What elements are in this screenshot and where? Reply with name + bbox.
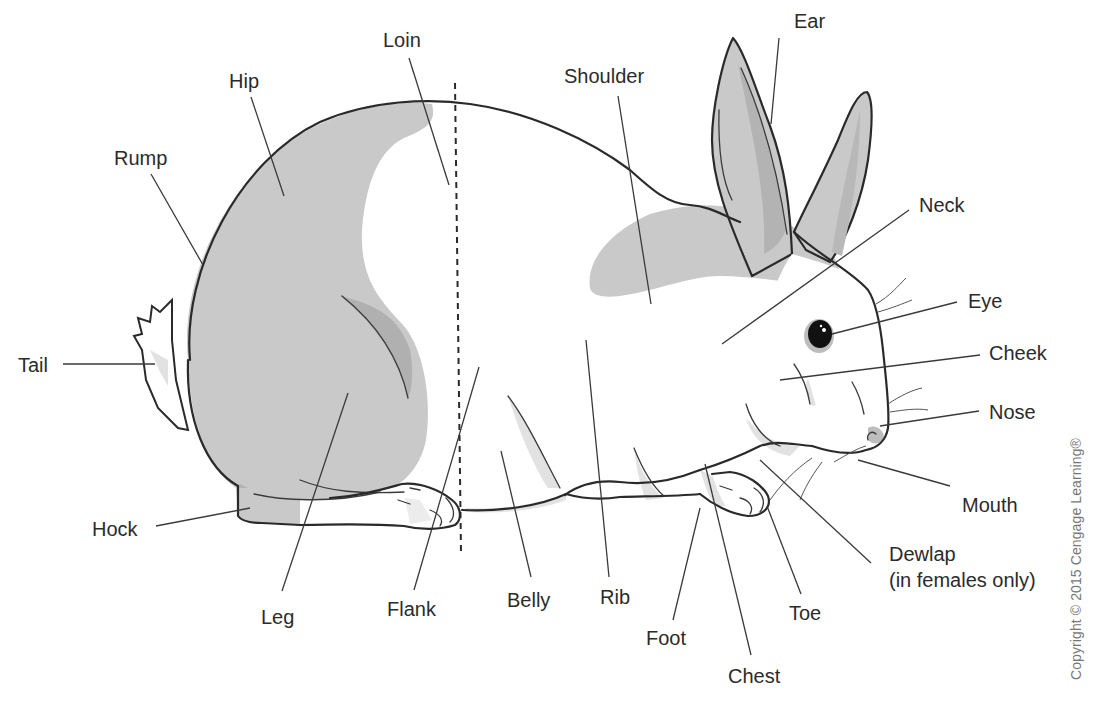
label-flank: Flank <box>387 598 437 620</box>
label-rump: Rump <box>114 147 167 169</box>
label-tail: Tail <box>18 354 48 376</box>
label-neck: Neck <box>919 194 966 216</box>
label-cheek: Cheek <box>989 342 1048 364</box>
label-hip: Hip <box>229 70 259 92</box>
label-loin: Loin <box>383 29 421 51</box>
label-dewlap: Dewlap <box>889 543 956 565</box>
ear-right-shape <box>794 92 872 262</box>
label-hock: Hock <box>92 518 139 540</box>
label-dewlap-note: (in females only) <box>889 569 1036 591</box>
label-ear: Ear <box>794 10 825 32</box>
label-foot: Foot <box>646 627 686 649</box>
copyright-notice: Copyright © 2015 Cengage Learning® <box>1068 438 1084 680</box>
label-eye: Eye <box>968 290 1002 312</box>
label-nose: Nose <box>989 401 1036 423</box>
label-belly: Belly <box>507 589 550 611</box>
label-rib: Rib <box>600 586 630 608</box>
label-chest: Chest <box>728 665 781 687</box>
label-mouth: Mouth <box>962 494 1018 516</box>
rabbit-illustration <box>134 38 928 553</box>
label-shoulder: Shoulder <box>564 65 644 87</box>
rabbit-anatomy-diagram: Ear Loin Hip Shoulder Rump Neck Eye Tail… <box>0 0 1102 710</box>
label-toe: Toe <box>789 602 821 624</box>
label-leg: Leg <box>261 606 294 628</box>
